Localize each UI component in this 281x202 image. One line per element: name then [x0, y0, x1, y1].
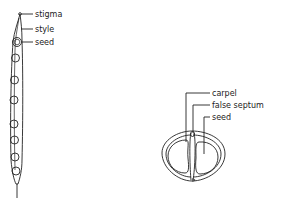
label-carpel: carpel — [212, 89, 237, 98]
false-septum — [190, 133, 195, 180]
pod-cross-section: carpel false septum seed — [162, 89, 264, 181]
pod-longitudinal: stigma style seed — [10, 10, 62, 198]
seeds — [10, 38, 22, 176]
seed — [12, 167, 20, 175]
seed-left — [168, 140, 189, 173]
diagram-canvas: stigma style seed carpel false septum se… — [0, 0, 281, 202]
leader-false-septum — [193, 105, 210, 133]
label-stigma: stigma — [35, 10, 62, 19]
carpel-inner — [166, 135, 221, 177]
seed — [12, 54, 20, 62]
seed-inner — [14, 39, 20, 45]
seed-right — [196, 142, 218, 174]
label-seed: seed — [35, 38, 54, 47]
label-seed-xs: seed — [212, 113, 231, 122]
leader-seed-xs — [204, 117, 210, 154]
label-style: style — [35, 25, 54, 34]
pod-inner-line — [14, 18, 19, 170]
label-false-septum: false septum — [212, 101, 264, 110]
